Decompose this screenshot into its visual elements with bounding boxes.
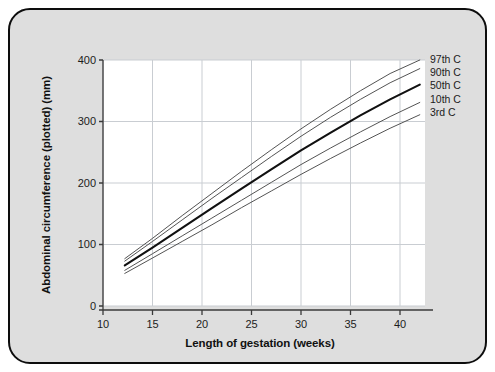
x-tick-label: 40 [394, 319, 406, 330]
percentile-curves [95, 52, 425, 308]
x-tick-label: 30 [295, 319, 307, 330]
plot-area [95, 52, 425, 308]
curve-90th-c [125, 69, 420, 261]
y-tick-label: 400 [54, 55, 96, 66]
legend-entry-97th-c: 97th C [430, 53, 486, 66]
legend-entry-10th-c: 10th C [430, 93, 486, 106]
y-tick-label: 100 [54, 239, 96, 250]
x-tick-label: 15 [146, 319, 158, 330]
curve-50th-c [125, 85, 420, 266]
legend-entry-3rd-c: 3rd C [430, 106, 486, 119]
y-tick-label: 0 [54, 301, 96, 312]
x-tick-label: 35 [344, 319, 356, 330]
curve-3rd-c [125, 115, 420, 274]
y-tick-label: 200 [54, 178, 96, 189]
legend-entry-50th-c: 50th C [430, 79, 486, 92]
x-tick-label: 10 [97, 319, 109, 330]
x-tick-label: 25 [245, 319, 257, 330]
y-tick-label: 300 [54, 116, 96, 127]
curve-97th-c [125, 60, 420, 259]
legend: 97th C90th C50th C10th C3rd C [430, 53, 486, 119]
curve-10th-c [125, 102, 420, 270]
legend-entry-90th-c: 90th C [430, 66, 486, 79]
chart-card: 0100200300400 10152025303540 Abdominal c… [8, 8, 487, 364]
x-axis-title: Length of gestation (weeks) [95, 337, 425, 349]
x-tick-label: 20 [196, 319, 208, 330]
y-axis-title: Abdominal circumference (plotted) (mm) [38, 70, 54, 300]
